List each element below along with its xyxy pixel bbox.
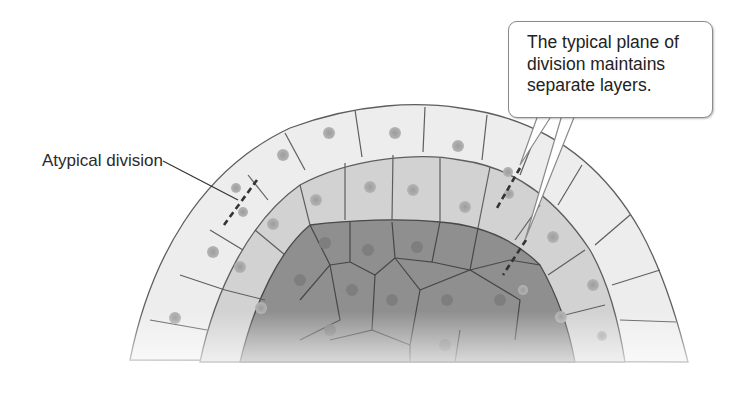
shoot-apex-diagram: Atypical division The typical plane of d… [0, 0, 751, 399]
callout-text: The typical plane of division maintains … [527, 32, 679, 97]
typical-plane-callout: The typical plane of division maintains … [508, 21, 713, 118]
atypical-division-label: Atypical division [42, 151, 163, 171]
